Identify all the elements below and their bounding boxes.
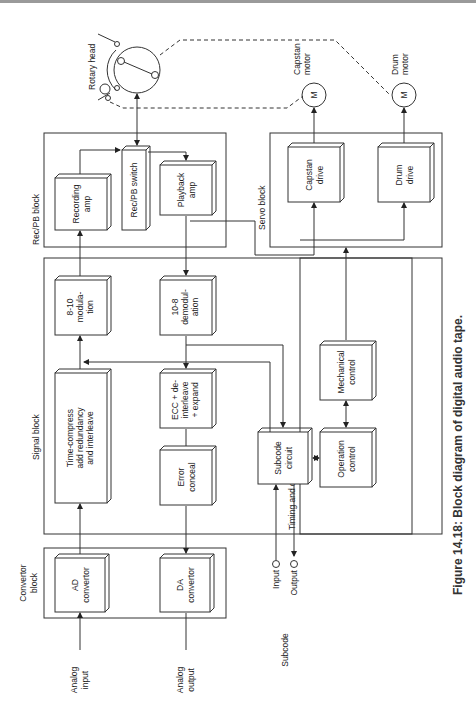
mechanical-control-box: Mechanical control — [320, 341, 376, 400]
playback-amp-box: Playback amp — [160, 161, 216, 215]
svg-text:Mechanical: Mechanical — [336, 350, 346, 393]
subcode-label: Subcode — [280, 633, 290, 667]
operation-control-box: Operation control — [320, 428, 376, 487]
subcode-circuit-box: Subcode circuit — [258, 428, 312, 484]
error-conceal-box: Error conceal — [160, 446, 216, 505]
svg-text:motor: motor — [302, 53, 312, 75]
svg-text:input: input — [80, 670, 90, 689]
subcode-output-terminal-icon — [291, 561, 298, 568]
rotary-head: Rotary head — [87, 34, 160, 101]
svg-text:Rec/PB switch: Rec/PB switch — [129, 162, 139, 217]
analog-input-label: Analog input — [69, 666, 90, 693]
svg-text:M: M — [399, 91, 409, 98]
svg-text:Error: Error — [176, 467, 186, 486]
dat-block-diagram: Convertor block Signal block Rec/PB bloc… — [0, 0, 476, 708]
svg-text:Subcode: Subcode — [273, 441, 283, 475]
recpb-switch-box: Rec/PB switch — [122, 146, 150, 230]
svg-text:amp: amp — [82, 195, 92, 212]
svg-text:conceal: conceal — [187, 462, 197, 491]
modulation-8-10-box: 8-10 modula- tion — [55, 276, 111, 335]
servo-block-label: Servo block — [257, 185, 267, 230]
svg-text:interleave: interleave — [180, 381, 190, 418]
sub-output-label: Output — [289, 569, 299, 595]
svg-text:ation: ation — [190, 298, 200, 317]
svg-text:add redundancy: add redundancy — [75, 407, 85, 469]
svg-text:control: control — [347, 359, 357, 385]
svg-text:AD: AD — [70, 579, 80, 591]
svg-text:M: M — [309, 91, 319, 98]
svg-text:Convertor: Convertor — [18, 564, 28, 601]
svg-text:control: control — [347, 446, 357, 472]
svg-text:DA: DA — [175, 579, 185, 591]
svg-text:circuit: circuit — [284, 446, 294, 469]
svg-text:modula-: modula- — [75, 291, 85, 322]
time-compress-box: Time-compress add redundancy and interle… — [55, 369, 111, 503]
svg-text:Recording: Recording — [71, 184, 81, 223]
svg-text:Analog: Analog — [175, 666, 185, 693]
svg-text:Drum: Drum — [394, 165, 404, 186]
svg-text:demodul-: demodul- — [180, 289, 190, 325]
svg-text:block: block — [29, 572, 39, 593]
svg-text:convertor: convertor — [186, 567, 196, 603]
svg-text:8-10: 8-10 — [65, 298, 75, 315]
recording-amp-box: Recording amp — [55, 174, 111, 230]
demodulation-10-8-box: 10-8 demodul- ation — [160, 276, 216, 335]
signal-block-label: Signal block — [31, 413, 41, 460]
svg-text:ECC + de-: ECC + de- — [170, 380, 180, 420]
svg-text:10-8: 10-8 — [170, 298, 180, 315]
svg-text:Capstan: Capstan — [292, 43, 302, 75]
capstan-motor: M Capstan motor — [292, 43, 326, 107]
svg-text:drive: drive — [405, 166, 415, 185]
svg-text:Time-compress: Time-compress — [65, 409, 75, 467]
svg-text:tion: tion — [85, 300, 95, 314]
drum-drive-box: Drum drive — [378, 143, 434, 202]
subcode-input-terminal-icon — [273, 561, 280, 568]
ecc-deinterleave-box: ECC + de- interleave + expand — [160, 369, 216, 428]
svg-text:Drum: Drum — [390, 54, 400, 75]
recpb-block-label: Rec/PB block — [31, 193, 41, 245]
svg-text:convertor: convertor — [81, 567, 91, 603]
svg-text:Operation: Operation — [336, 440, 346, 478]
svg-text:and interleave: and interleave — [85, 411, 95, 465]
ad-convertor-box: AD convertor — [55, 554, 109, 612]
drum-motor: M Drum motor — [390, 53, 416, 107]
svg-text:+ expand: + expand — [190, 382, 200, 417]
svg-text:motor: motor — [400, 53, 410, 75]
svg-text:Playback: Playback — [176, 172, 186, 207]
capstan-drive-box: Capstan drive — [288, 143, 344, 202]
sub-input-label: Input — [271, 569, 281, 589]
figure-caption: Figure 14.18: Block diagram of digital a… — [451, 315, 465, 595]
svg-text:output: output — [186, 668, 196, 692]
rotary-head-label: Rotary head — [87, 43, 97, 90]
svg-text:drive: drive — [315, 166, 325, 185]
convertor-block-label: Convertor block — [18, 564, 39, 601]
da-convertor-box: DA convertor — [160, 554, 214, 612]
svg-text:Capstan: Capstan — [304, 159, 314, 191]
svg-text:Analog: Analog — [69, 666, 79, 693]
analog-output-label: Analog output — [175, 666, 196, 693]
svg-text:amp: amp — [187, 181, 197, 198]
